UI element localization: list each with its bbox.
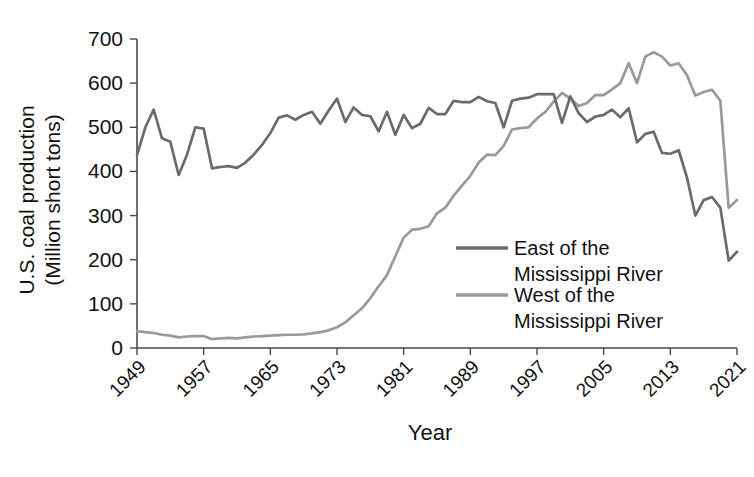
y-axis-tick-label: 0: [111, 336, 123, 359]
y-axis-tick-label: 200: [88, 248, 123, 271]
y-axis-tick-label: 600: [88, 71, 123, 94]
y-axis-tick-label: 300: [88, 204, 123, 227]
y-axis-title-line1: U.S. coal production: [15, 105, 38, 294]
y-axis-tick-label: 500: [88, 115, 123, 138]
coal-production-chart: U.S. coal production (Million short tons…: [0, 0, 754, 477]
chart-canvas: U.S. coal production (Million short tons…: [0, 0, 754, 477]
legend-label-west-line1: West of the: [514, 284, 615, 306]
y-axis-tick-label: 400: [88, 159, 123, 182]
x-axis-title: Year: [408, 420, 452, 445]
legend-label-east-line1: East of the: [514, 237, 610, 259]
legend-label-west-line2: Mississippi River: [514, 310, 663, 332]
y-axis-tick-label: 700: [88, 27, 123, 50]
y-axis-tick-label: 100: [88, 292, 123, 315]
legend-label-east-line2: Mississippi River: [514, 263, 663, 285]
y-axis-title-line2: (Million short tons): [41, 114, 64, 286]
